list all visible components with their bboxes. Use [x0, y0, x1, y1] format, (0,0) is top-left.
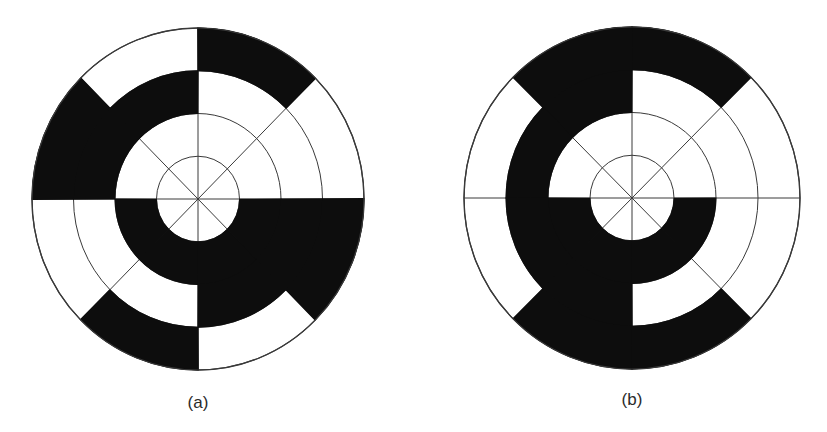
- figure-canvas: (a) (b): [0, 0, 827, 432]
- disk-b-caption: (b): [622, 390, 643, 409]
- code-disk-b: [464, 27, 800, 370]
- code-disk-a: [32, 28, 365, 371]
- disk-a-caption: (a): [188, 393, 209, 412]
